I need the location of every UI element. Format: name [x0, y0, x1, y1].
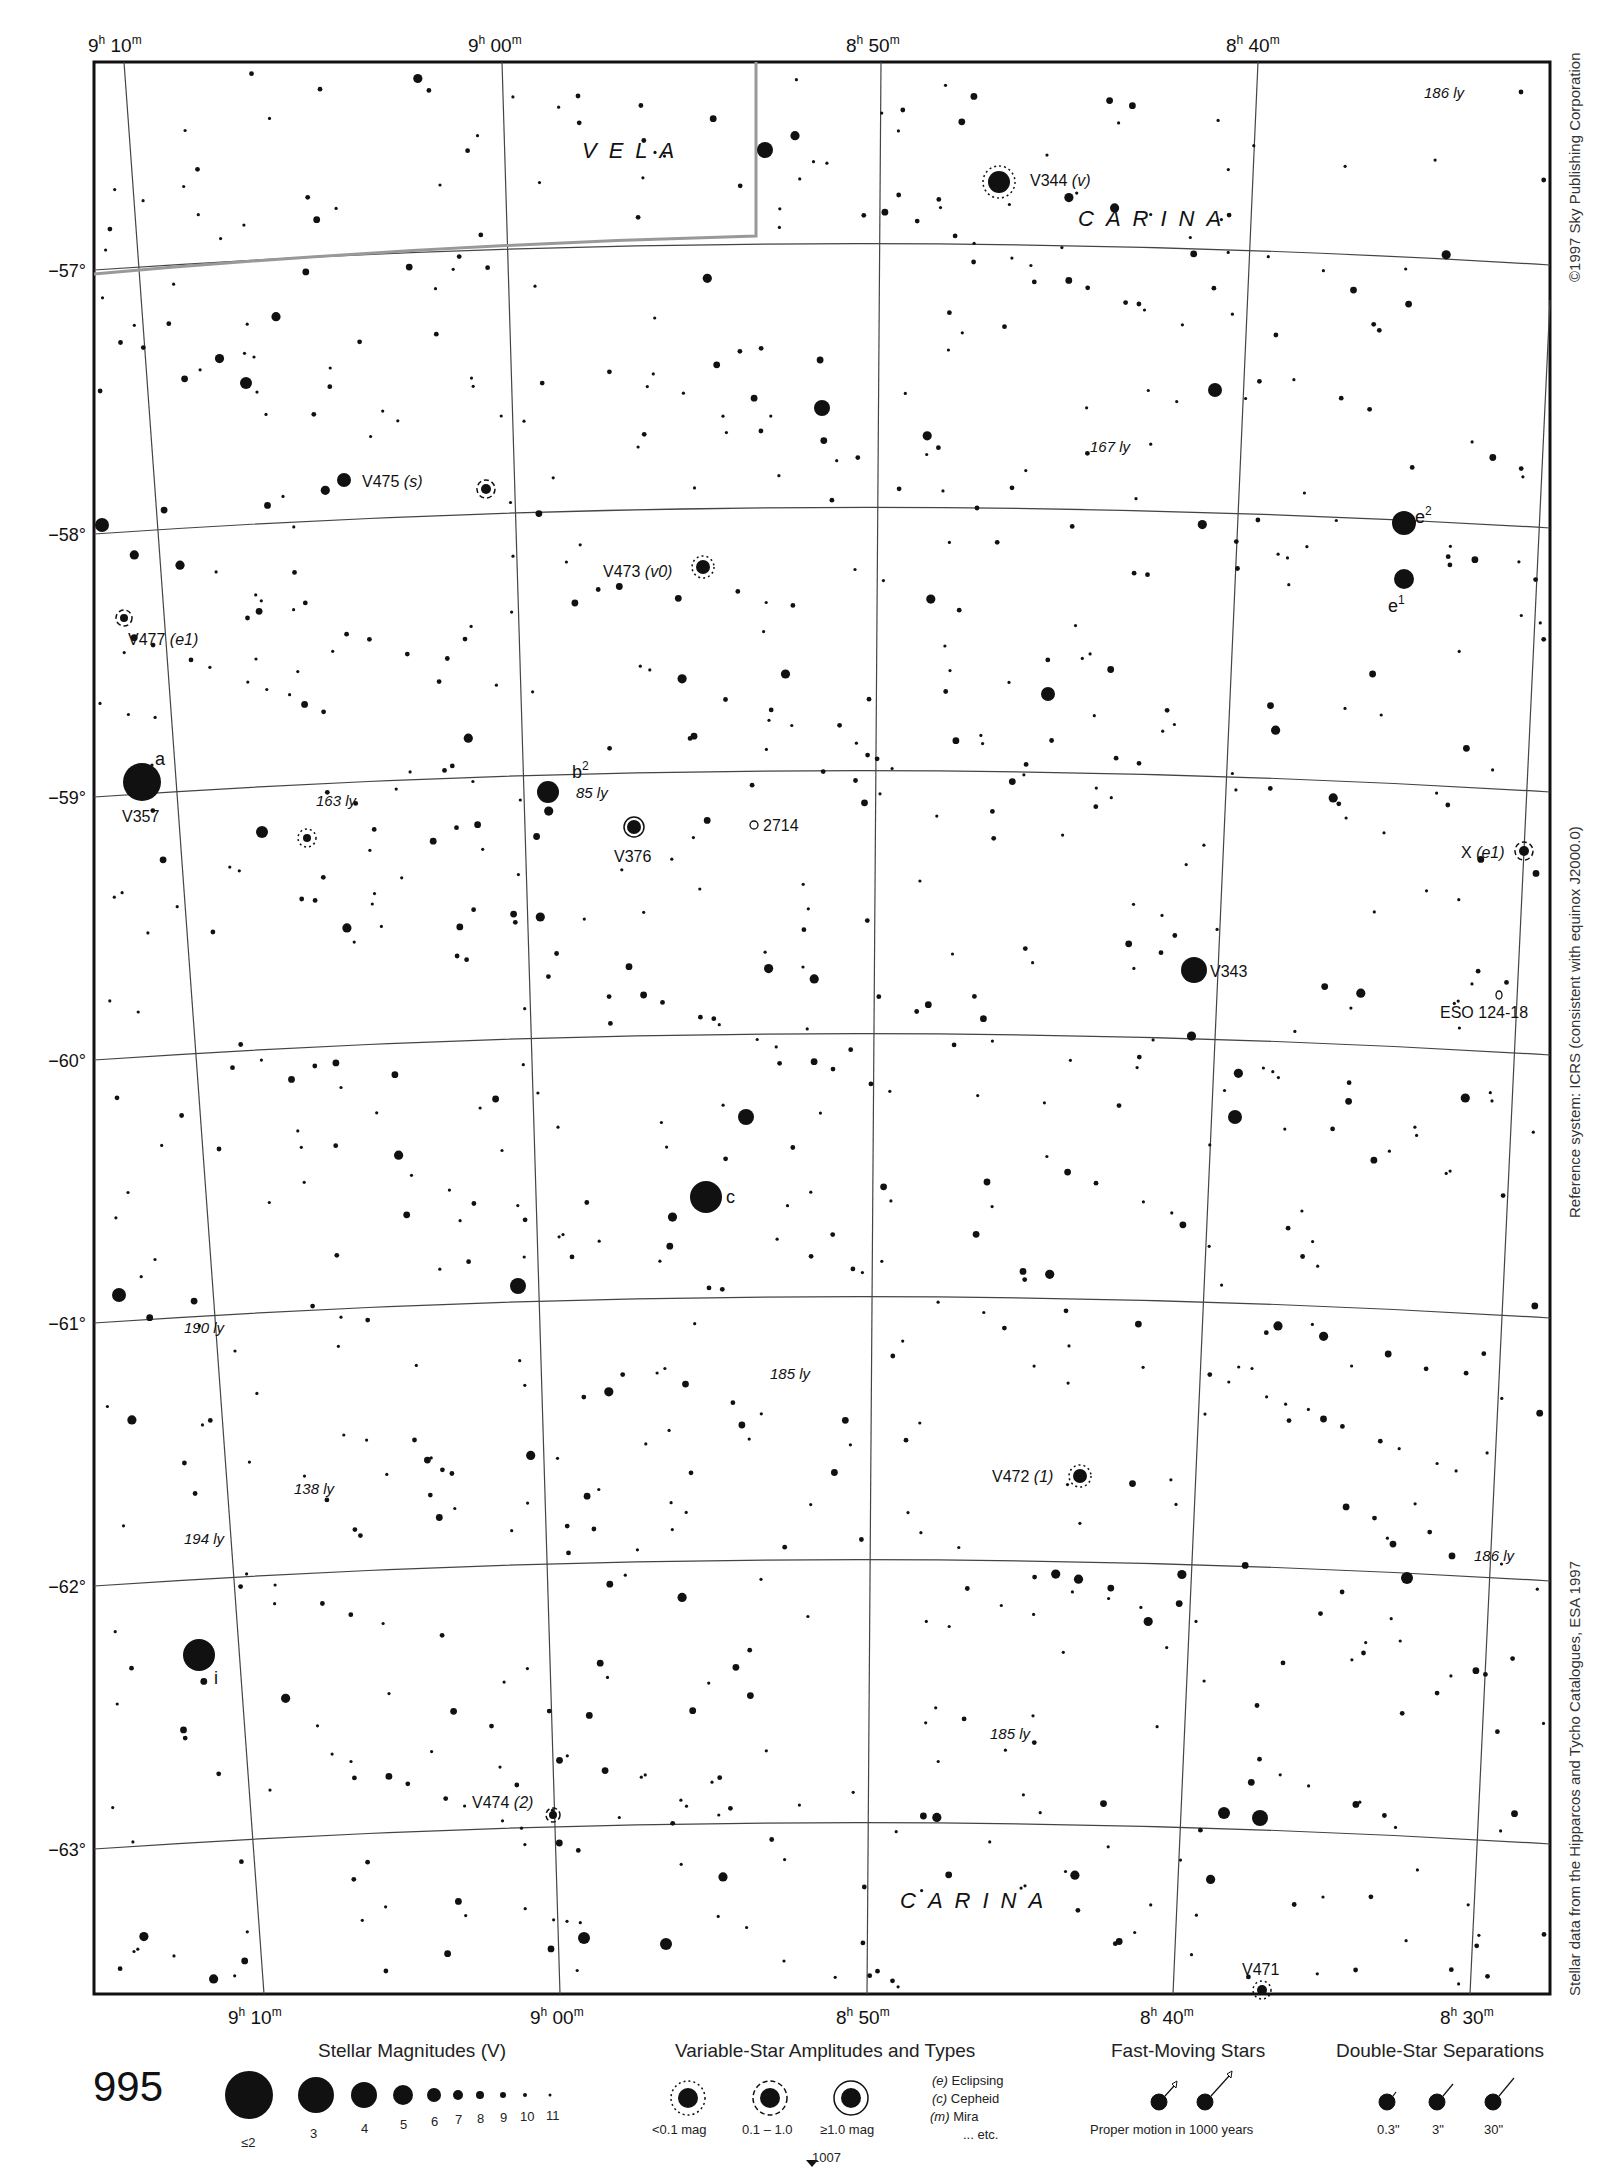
- magnitude-dot: [427, 2088, 441, 2102]
- bayer-a: a: [155, 749, 166, 769]
- mag-label: 8: [477, 2111, 484, 2126]
- separation-label: 0.3": [1377, 2122, 1400, 2137]
- label-v474: V474 (2): [472, 1794, 533, 1811]
- magnitude-dot: [351, 2082, 377, 2108]
- dec-label: −63°: [48, 1840, 86, 1860]
- constellation-name-carina: CARINA: [900, 1888, 1055, 1913]
- distance-label: 163 ly: [316, 792, 358, 809]
- dec-label: −57°: [48, 261, 86, 281]
- star: [1252, 1810, 1268, 1826]
- constellation-name-vela: VELA: [582, 138, 686, 163]
- label-v477: V477 (e1): [128, 631, 198, 648]
- distance-label: 194 ly: [184, 1530, 226, 1547]
- open-cluster-icon: [750, 821, 758, 829]
- label-v475: V475 (s): [362, 473, 422, 490]
- distance-label: 186 ly: [1424, 84, 1466, 101]
- dso-label-2714: 2714: [763, 817, 799, 834]
- star: [112, 1288, 126, 1302]
- star: [578, 1932, 590, 1944]
- distance-label: 138 ly: [294, 1480, 336, 1497]
- mag-label: 5: [400, 2117, 407, 2132]
- deep-sky-objects: [750, 821, 1502, 999]
- bayer-c: c: [726, 1187, 735, 1207]
- label-v376: V376: [614, 848, 651, 865]
- star-chart: 9h 10m 9h 00m 8h 50m 8h 40m 9h 10m 9h 00…: [0, 0, 1608, 2168]
- ra-label: 8h 40m: [1226, 33, 1280, 56]
- distance-label: 185 ly: [770, 1365, 812, 1382]
- legend-double-stars: [1379, 2078, 1514, 2110]
- variable-stars: [120, 484, 1529, 1995]
- star-c-car: [690, 1181, 722, 1213]
- legend-fast-moving-title: Fast-Moving Stars: [1111, 2040, 1265, 2062]
- magnitude-dot: [225, 2071, 273, 2119]
- ra-label: 9h 10m: [228, 2005, 282, 2028]
- dso-label-eso: ESO 124-18: [1440, 1004, 1528, 1021]
- amplitude-label: ≥1.0 mag: [820, 2122, 874, 2137]
- label-x: X (e1): [1461, 844, 1505, 861]
- label-v472: V472 (1): [992, 1468, 1053, 1485]
- amplitude-label: 0.1 – 1.0: [742, 2122, 793, 2137]
- ra-labels-top: 9h 10m 9h 00m 8h 50m 8h 40m: [88, 33, 1280, 56]
- constellation-names: VELA CARINA CARINA: [582, 138, 1233, 1913]
- dec-label: −60°: [48, 1051, 86, 1071]
- mag-label: 11: [546, 2108, 560, 2123]
- bayer-i: i: [214, 1668, 218, 1688]
- chart-frame: [94, 62, 1550, 1994]
- star: [240, 377, 252, 389]
- legend-magnitudes-title: Stellar Magnitudes (V): [318, 2040, 506, 2062]
- mag-label: 3: [310, 2126, 317, 2141]
- label-v344: V344 (v): [1030, 172, 1090, 189]
- star-v343: [1181, 957, 1207, 983]
- ra-label: 8h 50m: [846, 33, 900, 56]
- star: [1228, 1110, 1242, 1124]
- constellation-name-carina: CARINA: [1078, 206, 1233, 231]
- distance-label: 190 ly: [184, 1319, 226, 1336]
- dec-grid: [94, 244, 1550, 1849]
- ra-label: 9h 00m: [468, 33, 522, 56]
- label-v343: V343: [1210, 963, 1247, 980]
- star: [1208, 383, 1222, 397]
- star: [256, 826, 268, 838]
- separation-label: 3": [1432, 2122, 1444, 2137]
- ra-label: 8h 30m: [1440, 2005, 1494, 2028]
- variable-type: ... etc.: [963, 2127, 998, 2142]
- ra-label: 8h 50m: [836, 2005, 890, 2028]
- label-v473: V473 (v0): [603, 563, 672, 580]
- magnitude-dot: [476, 2091, 484, 2099]
- dec-label: −61°: [48, 1314, 86, 1334]
- data-source-text: Stellar data from the Hipparcos and Tych…: [1566, 1561, 1583, 1996]
- dec-labels: −57° −58° −59° −60° −61° −62° −63°: [48, 261, 86, 1860]
- copyright-text: ©1997 Sky Publishing Corporation: [1566, 52, 1583, 282]
- star: [1041, 687, 1055, 701]
- amplitude-label: <0.1 mag: [652, 2122, 707, 2137]
- star-e1: [1394, 569, 1414, 589]
- variable-type: (m) Mira: [930, 2109, 978, 2124]
- bright-stars: [95, 142, 1416, 1950]
- mag-label: 9: [500, 2110, 507, 2125]
- legend-fast-moving: [1151, 2071, 1232, 2110]
- field-stars: [98, 71, 1547, 1988]
- star: [337, 473, 351, 487]
- bayer-e1: e1: [1388, 593, 1405, 616]
- label-v357: V357: [122, 808, 159, 825]
- star: [95, 518, 109, 532]
- magnitude-dot: [453, 2090, 463, 2100]
- star: [1401, 1572, 1413, 1584]
- star: [814, 400, 830, 416]
- constellation-boundary: [94, 62, 756, 274]
- distance-label: 185 ly: [990, 1725, 1032, 1742]
- variable-type: (c) Cepheid: [932, 2091, 999, 2106]
- legend-variables-title: Variable-Star Amplitudes and Types: [675, 2040, 975, 2062]
- star-v344: [988, 171, 1010, 193]
- dec-label: −59°: [48, 788, 86, 808]
- adjacent-chart-link[interactable]: 1007: [812, 2150, 841, 2165]
- dso-labels: 2714 ESO 124-18: [763, 817, 1528, 1021]
- mag-label: 4: [361, 2121, 368, 2136]
- distance-labels: 186 ly 167 ly 163 ly 85 ly 190 ly 185 ly…: [184, 84, 1516, 1742]
- star-e2: [1392, 511, 1416, 535]
- star: [660, 1938, 672, 1950]
- ra-label: 9h 10m: [88, 33, 142, 56]
- star: [1218, 1807, 1230, 1819]
- ra-labels-bottom: 9h 10m 9h 00m 8h 50m 8h 40m 8h 30m: [228, 2005, 1494, 2028]
- variable-labels: V344 (v) V475 (s) V473 (v0) V477 (e1) V3…: [122, 172, 1505, 1978]
